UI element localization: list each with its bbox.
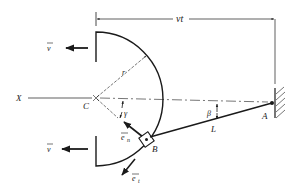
x-axis: X — [15, 93, 268, 103]
center-point: C — [83, 95, 99, 111]
radius-label: r — [122, 68, 126, 77]
gamma-angle: γ — [120, 101, 128, 118]
gamma-label: γ — [124, 109, 128, 118]
displacement-dimension: vt — [96, 12, 274, 26]
rod: L — [150, 103, 272, 137]
svg-text:v: v — [47, 44, 51, 53]
svg-text:t: t — [138, 178, 140, 184]
svg-text:v: v — [47, 145, 51, 154]
svg-text:e: e — [132, 174, 136, 183]
velocity-arrow-bottom: v — [47, 144, 88, 154]
mechanism-diagram: vt X C r γ e n B — [0, 0, 301, 189]
beta-label: β — [206, 109, 211, 118]
axis-label: X — [15, 93, 22, 103]
radius-dimension: r — [97, 56, 146, 97]
beta-angle: β — [206, 104, 217, 119]
pivot-label: A — [261, 111, 268, 121]
hatched-wall-icon — [275, 19, 285, 118]
center-label: C — [83, 101, 90, 111]
tangent-unit-vector: e t — [122, 159, 140, 184]
cb-line — [97, 99, 118, 118]
displacement-label: vt — [176, 13, 183, 24]
svg-text:n: n — [127, 137, 130, 143]
slider-label: B — [152, 144, 158, 154]
velocity-arrow-top: v — [47, 43, 88, 53]
rod-length-label: L — [210, 124, 216, 134]
svg-text:e: e — [121, 133, 125, 142]
